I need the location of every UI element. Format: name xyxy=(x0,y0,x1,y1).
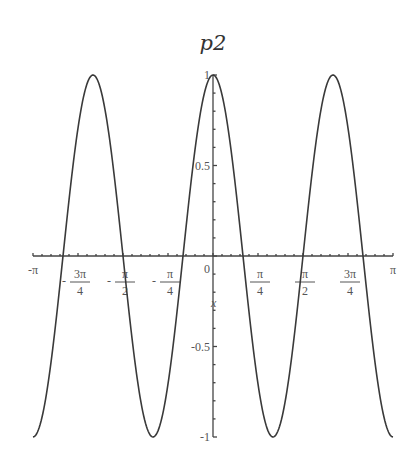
chart: p2 -π-3π4-π2-π4π4π23π4π010.5-0.5-1 x xyxy=(0,0,419,465)
x-tick-label-denominator: 4 xyxy=(347,284,353,298)
origin-label: 0 xyxy=(204,262,210,276)
x-axis-label: x xyxy=(210,296,217,310)
x-tick-label-denominator: 4 xyxy=(167,284,173,298)
x-tick-label-sign: - xyxy=(62,274,66,288)
axes xyxy=(33,75,393,437)
x-tick-label-numerator: π xyxy=(302,267,308,281)
y-tick-label: -0.5 xyxy=(191,340,210,354)
x-tick-label-denominator: 2 xyxy=(302,284,308,298)
x-tick-label: -π xyxy=(28,263,38,277)
x-tick-label-denominator: 4 xyxy=(257,284,263,298)
x-tick-label-numerator: π xyxy=(257,267,263,281)
y-tick-label: 0.5 xyxy=(195,159,210,173)
x-tick-label-sign: - xyxy=(107,274,111,288)
x-tick-label-numerator: π xyxy=(167,267,173,281)
y-tick-label: -1 xyxy=(200,430,210,444)
x-tick-label-numerator: 3π xyxy=(344,267,356,281)
chart-title: p2 xyxy=(200,31,227,55)
x-tick-label-numerator: 3π xyxy=(74,267,86,281)
x-tick-label-sign: - xyxy=(152,274,156,288)
x-tick-label: π xyxy=(390,263,396,277)
x-tick-label-denominator: 4 xyxy=(77,284,83,298)
